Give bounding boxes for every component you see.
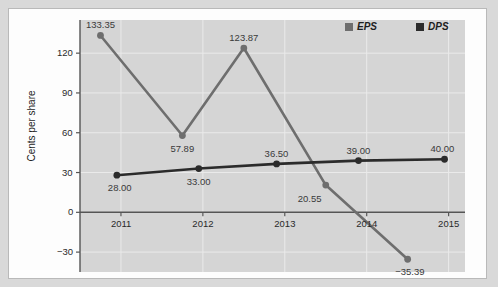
legend-label-eps: EPS xyxy=(357,21,377,32)
chart-canvas xyxy=(0,0,498,287)
plot-panel xyxy=(80,20,465,272)
y-axis-tick-label: 120 xyxy=(57,47,73,58)
data-label-eps: 133.35 xyxy=(86,19,115,30)
legend-swatch-dps xyxy=(416,23,424,31)
y-axis-tick-label: 0 xyxy=(68,206,73,217)
x-axis-tick-label: 2014 xyxy=(356,218,377,229)
data-point-eps[interactable] xyxy=(322,182,329,189)
data-point-dps[interactable] xyxy=(195,165,202,172)
x-axis-tick-label: 2013 xyxy=(274,218,295,229)
data-point-dps[interactable] xyxy=(273,161,280,168)
data-label-eps: 57.89 xyxy=(170,143,194,154)
data-point-dps[interactable] xyxy=(355,157,362,164)
x-axis-tick-label: 2015 xyxy=(438,218,459,229)
x-axis-tick-label: 2011 xyxy=(111,218,131,229)
data-point-eps[interactable] xyxy=(97,32,104,39)
legend-swatch-eps xyxy=(345,23,353,31)
data-label-eps: −35.39 xyxy=(395,266,424,277)
data-label-eps: 20.55 xyxy=(298,193,322,204)
line-chart: 1209060300−3020112012201320142015Cents p… xyxy=(0,0,498,287)
data-point-dps[interactable] xyxy=(113,172,120,179)
page-root: 1209060300−3020112012201320142015Cents p… xyxy=(0,0,498,287)
legend-label-dps: DPS xyxy=(428,21,449,32)
data-point-dps[interactable] xyxy=(441,156,448,163)
y-axis-title: Cents per share xyxy=(26,90,37,161)
y-axis-tick-label: 90 xyxy=(62,87,73,98)
data-point-eps[interactable] xyxy=(179,132,186,139)
data-label-dps: 39.00 xyxy=(347,145,371,156)
data-label-dps: 28.00 xyxy=(108,182,132,193)
y-axis-tick-label: 60 xyxy=(62,127,73,138)
data-label-dps: 33.00 xyxy=(187,176,211,187)
data-label-dps: 40.00 xyxy=(431,143,455,154)
data-point-eps[interactable] xyxy=(240,45,247,52)
x-axis-tick-label: 2012 xyxy=(192,218,213,229)
data-label-eps: 123.87 xyxy=(229,32,258,43)
y-axis-tick-label: 30 xyxy=(62,167,73,178)
y-axis-tick-label: −30 xyxy=(57,246,73,257)
data-point-eps[interactable] xyxy=(404,256,411,263)
data-label-dps: 36.50 xyxy=(265,148,289,159)
